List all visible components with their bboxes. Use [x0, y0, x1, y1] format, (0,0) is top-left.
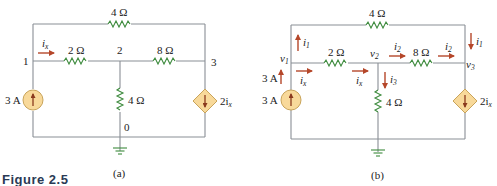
- current-source-icon: [281, 90, 301, 110]
- resistor-8ohm-a: [153, 58, 175, 64]
- label-ix-mid: ix: [356, 74, 363, 88]
- label-2ohm: 2 Ω: [68, 44, 84, 56]
- resistor-top-4ohm-b: [366, 22, 388, 28]
- label-i2-a: i2: [394, 40, 401, 54]
- label-8ohm: 8 Ω: [413, 46, 429, 58]
- label-node-1: 1: [23, 55, 29, 67]
- circuit-b: 4 Ω 2 Ω 8 Ω 4 Ω v1 v2 v3 i1 i1 i2 i2 i3 …: [262, 7, 493, 182]
- figure-label: Figure 2.5: [2, 172, 68, 186]
- label-2ohm: 2 Ω: [328, 46, 344, 58]
- label-top-resistor: 4 Ω: [369, 7, 385, 19]
- label-i1-right: i1: [476, 35, 483, 49]
- caption-a: (a): [113, 167, 126, 180]
- current-source-icon: [23, 90, 43, 110]
- label-4ohm-vertical: 4 Ω: [128, 94, 144, 106]
- label-ix: ix: [42, 37, 49, 51]
- label-dependent-source: 2ix: [480, 95, 493, 109]
- label-3a-source: 3 A: [262, 94, 278, 106]
- resistor-2ohm-b: [324, 60, 346, 66]
- label-3a-arrow: 3 A: [262, 72, 278, 84]
- label-node-2: 2: [117, 44, 123, 56]
- label-3a-source: 3 A: [5, 94, 21, 106]
- dependent-current-source-icon: [193, 89, 217, 113]
- circuit-figure: 4 Ω 2 Ω 8 Ω 4 Ω 1 2 3 0 ix 3 A 2ix (a): [0, 0, 497, 186]
- label-node-3: 3: [211, 56, 217, 68]
- caption-b: (b): [371, 169, 384, 182]
- resistor-4ohm-vertical-b: [375, 90, 381, 112]
- label-dependent-source: 2ix: [220, 95, 233, 109]
- label-v1: v1: [280, 52, 289, 66]
- label-ix-left: ix: [300, 74, 307, 88]
- resistor-2ohm-a: [64, 58, 86, 64]
- label-4ohm-vertical: 4 Ω: [386, 96, 402, 108]
- label-v2: v2: [370, 47, 379, 61]
- resistor-top-4ohm-a: [108, 21, 130, 27]
- label-top-resistor: 4 Ω: [111, 6, 127, 18]
- resistor-4ohm-vertical-a: [117, 88, 123, 110]
- label-i2-b: i2: [445, 40, 452, 54]
- label-i1-left: i1: [303, 36, 310, 50]
- dependent-current-source-icon: [453, 89, 477, 113]
- label-i3: i3: [390, 73, 397, 87]
- circuit-a: 4 Ω 2 Ω 8 Ω 4 Ω 1 2 3 0 ix 3 A 2ix (a): [5, 6, 233, 180]
- label-node-0: 0: [124, 121, 130, 133]
- label-8ohm: 8 Ω: [157, 44, 173, 56]
- label-v3: v3: [466, 58, 475, 72]
- resistor-8ohm-b: [410, 60, 432, 66]
